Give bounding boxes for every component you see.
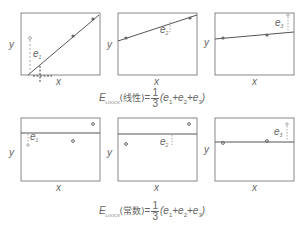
term-sub: 2: [184, 99, 187, 105]
data-point: [92, 123, 95, 126]
sum-expression: (e1+e2+e3): [160, 205, 205, 216]
equals-sign: =: [145, 205, 151, 216]
error-label-e3: e3: [274, 126, 283, 138]
panel-linear-1: e1 y x: [8, 13, 100, 87]
term-sub: 2: [184, 212, 187, 218]
y-axis-label: y: [203, 144, 210, 155]
equation-constant: ELOOCV(常数)=13(e1+e2+e3): [0, 201, 304, 222]
panel-linear-2: e2 y x: [106, 13, 197, 87]
x-axis-label: x: [251, 76, 258, 87]
panel-const-1: e1 y x: [8, 118, 100, 193]
held-out-point: [27, 144, 29, 146]
model-name: (线性): [120, 93, 145, 103]
y-axis-label: y: [106, 147, 113, 158]
y-axis-label: y: [8, 147, 15, 158]
held-out-point: [29, 37, 32, 40]
data-point: [188, 123, 191, 126]
held-out-point: [287, 14, 289, 16]
equation-subscript: LOOCV: [106, 100, 120, 105]
sum-expression: (e1+e2+e3): [160, 92, 205, 103]
panel-const-3: e3 y x: [203, 118, 294, 193]
y-axis-label: y: [8, 39, 15, 50]
y-axis-label: y: [203, 37, 210, 48]
data-point: [221, 36, 224, 39]
equation-subscript: LOOCV: [106, 213, 120, 218]
data-point: [124, 36, 127, 39]
data-point: [266, 140, 269, 143]
fraction: 13: [151, 88, 159, 109]
error-label-e1: e1: [33, 48, 42, 60]
data-point: [72, 140, 75, 143]
equation-lhs: E: [99, 205, 106, 216]
term-sub: 3: [198, 212, 201, 218]
denominator: 3: [151, 99, 159, 109]
y-axis-label: y: [106, 39, 113, 50]
loocv-diagram: e1 y x e2 y x e3 y x e1 y x: [0, 0, 304, 228]
data-point: [222, 142, 225, 145]
data-point: [71, 34, 74, 37]
denominator: 3: [151, 212, 159, 222]
error-label-e2: e2: [160, 24, 169, 36]
equation-lhs: E: [99, 92, 106, 103]
x-axis-label: x: [153, 76, 160, 87]
error-label-e3: e3: [275, 17, 284, 29]
x-axis-label: x: [55, 76, 62, 87]
x-axis-label: x: [55, 182, 62, 193]
x-axis-label: x: [251, 182, 258, 193]
equals-sign: =: [145, 92, 151, 103]
model-name: (常数): [120, 206, 145, 216]
x-axis-label: x: [153, 182, 160, 193]
fraction: 13: [151, 201, 159, 222]
data-point: [188, 16, 191, 19]
term-sub: 3: [198, 99, 201, 105]
data-point: [91, 17, 94, 20]
held-out-point: [286, 123, 288, 125]
data-point: [265, 33, 268, 36]
panel-linear-3: e3 y x: [203, 13, 294, 87]
term-sub: 1: [169, 99, 172, 105]
panel-const-2: e2 y x: [106, 118, 197, 193]
term-sub: 1: [169, 212, 172, 218]
equation-linear: ELOOCV(线性)=13(e1+e2+e3): [0, 88, 304, 109]
error-label-e2: e2: [160, 136, 169, 148]
data-point: [125, 143, 128, 146]
